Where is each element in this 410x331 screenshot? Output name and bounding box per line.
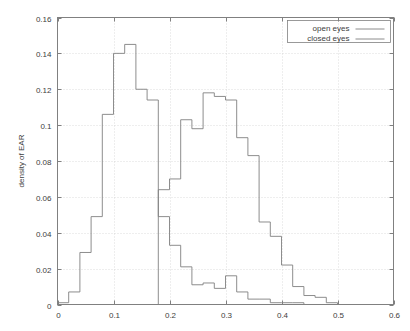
x-tick-label: 0.6 [389, 311, 401, 320]
y-tick-label: 0.08 [36, 158, 52, 167]
legend-label-closed-eyes: closed eyes [307, 34, 349, 43]
y-axis-title: density of EAR [17, 134, 26, 187]
y-tick-label: 0.02 [36, 266, 52, 275]
y-tick-label: 0.12 [36, 86, 52, 95]
chart-figure: 00.10.20.30.40.50.6 00.020.040.060.080.1… [0, 0, 410, 331]
y-tick-label: 0.1 [40, 122, 52, 131]
x-tick-label: 0.3 [221, 311, 233, 320]
y-tick-label: 0.04 [36, 230, 52, 239]
plot-background [0, 0, 410, 331]
y-tick-label: 0.16 [36, 15, 52, 24]
x-tick-label: 0.4 [277, 311, 289, 320]
y-axis-title-text: density of EAR [17, 134, 26, 187]
x-tick-label: 0.2 [165, 311, 177, 320]
x-tick-label: 0.1 [109, 311, 121, 320]
legend-label-open-eyes: open eyes [313, 24, 350, 33]
y-tick-label: 0 [47, 302, 52, 311]
x-tick-label: 0.5 [333, 311, 345, 320]
x-tick-label: 0 [56, 311, 61, 320]
y-tick-label: 0.14 [36, 50, 52, 59]
histogram-plot: 00.10.20.30.40.50.6 00.020.040.060.080.1… [0, 0, 410, 331]
y-tick-label: 0.06 [36, 194, 52, 203]
